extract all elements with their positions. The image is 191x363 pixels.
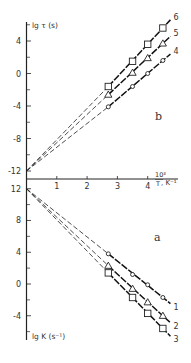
y-tick-label: -8 <box>13 135 21 144</box>
square-marker-icon <box>129 294 135 300</box>
square-marker-icon <box>105 270 111 276</box>
circle-marker-icon <box>131 272 135 276</box>
bottom-panel: 12840-4 lg K (s⁻¹) a 123 <box>11 179 179 344</box>
series-label: 5 <box>173 29 178 38</box>
extrapolation-line <box>27 189 109 266</box>
x-axis-title: 10³ T , K⁻¹ <box>155 171 177 188</box>
square-marker-icon <box>160 25 166 31</box>
extrapolation-line <box>27 189 109 254</box>
triangle-marker-icon <box>144 299 151 305</box>
series-label: 4 <box>173 47 178 56</box>
y-tick-label: 0 <box>16 280 21 289</box>
circle-marker-icon <box>106 252 110 256</box>
y-tick-label: 12 <box>11 185 21 194</box>
series-3: 3 <box>27 189 179 344</box>
x-tick-label: 4 <box>145 182 150 191</box>
panel-label-b: b <box>155 110 162 123</box>
y-tick-label: -4 <box>13 312 21 321</box>
svg-text:T: T <box>155 180 160 188</box>
series-label: 6 <box>173 13 178 22</box>
data-line <box>108 266 170 323</box>
top-series-group: 654 <box>27 13 179 171</box>
top-panel: 40-4-8-12 lg τ (s) b 654 <box>8 13 179 179</box>
y-tick-label: 4 <box>16 248 21 257</box>
series-label: 3 <box>173 335 178 344</box>
extrapolation-line <box>27 107 109 171</box>
series-2: 2 <box>27 189 179 331</box>
extrapolation-line <box>27 95 109 171</box>
y-tick-label: 0 <box>16 70 21 79</box>
arrhenius-chart: 40-4-8-12 lg τ (s) b 654 1234 10³ T , K⁻… <box>0 0 191 363</box>
bottom-y-ticks: 12840-4 <box>11 185 31 332</box>
y-tick-label: -12 <box>8 167 21 176</box>
square-marker-icon <box>145 41 151 47</box>
extrapolation-line <box>27 87 109 172</box>
circle-marker-icon <box>161 59 165 63</box>
circle-marker-icon <box>106 105 110 109</box>
square-marker-icon <box>105 83 111 89</box>
svg-text:, K⁻¹: , K⁻¹ <box>161 179 177 187</box>
panel-label-a: a <box>154 231 161 244</box>
bottom-y-axis-title: lg K (s⁻¹) <box>32 332 65 341</box>
y-tick-label: 8 <box>16 216 21 225</box>
top-y-ticks: 40-4-8-12 <box>8 25 31 176</box>
square-marker-icon <box>160 325 166 331</box>
bottom-series-group: 123 <box>27 189 179 344</box>
series-5: 5 <box>27 29 179 171</box>
x-tick-label: 3 <box>115 182 120 191</box>
x-tick-label: 1 <box>54 182 59 191</box>
circle-marker-icon <box>146 283 150 287</box>
circle-marker-icon <box>161 295 165 299</box>
circle-marker-icon <box>146 72 150 76</box>
extrapolation-line <box>27 189 109 273</box>
circle-marker-icon <box>131 85 135 89</box>
x-tick-label: 2 <box>85 182 90 191</box>
series-6: 6 <box>27 13 179 171</box>
x-ticks: 1234 <box>54 176 150 191</box>
square-marker-icon <box>145 310 151 316</box>
series-label: 1 <box>173 303 178 312</box>
y-tick-label: -4 <box>13 102 21 111</box>
series-1: 1 <box>27 189 179 312</box>
svg-text:10³: 10³ <box>155 171 166 179</box>
top-y-axis-title: lg τ (s) <box>32 21 58 30</box>
series-label: 2 <box>173 322 178 331</box>
y-tick-label: 4 <box>16 37 21 46</box>
square-marker-icon <box>129 58 135 64</box>
